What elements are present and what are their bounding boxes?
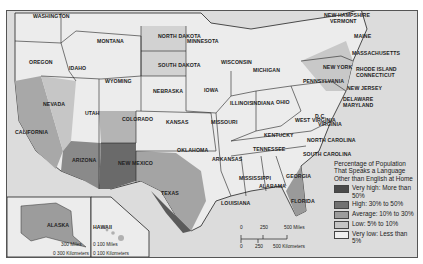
- state-label: ILLINOIS: [230, 100, 253, 106]
- state-label: MONTANA: [97, 38, 124, 44]
- state-label: COLORADO: [122, 116, 153, 122]
- scale-miles-500: 500 Miles: [284, 225, 305, 230]
- state-label: OREGON: [29, 59, 53, 65]
- legend-label: Average: 10% to 30%: [352, 210, 414, 217]
- state-label: MICHIGAN: [253, 67, 280, 73]
- state-label: VERMONT: [330, 18, 357, 24]
- legend-label: Very high: More than 50%: [352, 184, 418, 199]
- state-label: PENNSYLVANIA: [303, 78, 344, 84]
- state-label: WISCONSIN: [221, 59, 252, 65]
- scale-km-250: 250: [255, 244, 263, 249]
- alaska-scale-miles: 300 Miles: [61, 242, 82, 247]
- state-label: KANSAS: [166, 119, 189, 125]
- state-label: TEXAS: [161, 190, 179, 196]
- state-label: SOUTH CAROLINA: [303, 151, 351, 157]
- legend-swatch: [334, 231, 349, 239]
- state-label: OHIO: [276, 99, 290, 105]
- state-label: SOUTH DAKOTA: [158, 62, 201, 68]
- legend-label: Low: 5% to 10%: [352, 220, 398, 227]
- state-label: IOWA: [204, 87, 218, 93]
- state-label: MAINE: [354, 33, 371, 39]
- legend-label: High: 30% to 50%: [352, 200, 403, 207]
- scale-miles-0: 0: [240, 225, 243, 230]
- state-label: KENTUCKY: [264, 132, 294, 138]
- state-label: NEW JERSEY: [347, 85, 382, 91]
- hawaii-scale-miles: 0 100 Miles: [93, 242, 118, 247]
- state-label: ALABAMA: [259, 183, 286, 189]
- state-label: NEBRASKA: [153, 88, 183, 94]
- state-label: IDAHO: [69, 65, 86, 71]
- legend-swatch: [334, 185, 349, 193]
- legend-label: Very low: Less than 5%: [352, 230, 418, 245]
- state-label: UTAH: [85, 110, 99, 116]
- state-label: FLORIDA: [291, 198, 315, 204]
- legend-swatch: [334, 201, 349, 209]
- state-label: MINNESOTA: [187, 38, 219, 44]
- state-label: VIRGINIA: [318, 121, 342, 127]
- state-label: HAWAII: [93, 224, 112, 230]
- legend-item-very-low: Very low: Less than 5%: [334, 230, 418, 245]
- state-label: ALASKA: [47, 222, 69, 228]
- state-label: NEVADA: [43, 101, 65, 107]
- state-label: INDIANA: [252, 100, 274, 106]
- scale-km-0: 0: [240, 244, 243, 249]
- state-label: OKLAHOMA: [177, 147, 208, 153]
- state-label: WASHINGTON: [33, 13, 70, 19]
- legend-item-high: High: 30% to 50%: [334, 200, 418, 209]
- state-label: D.C.: [315, 113, 326, 119]
- state-label: CALIFORNIA: [15, 129, 48, 135]
- scale-km-500: 500 Kilometers: [273, 244, 305, 249]
- hawaii-scale-km: 0 100 Kilometers: [93, 251, 129, 256]
- state-label: WYOMING: [105, 78, 132, 84]
- state-label: MISSISSIPPI: [239, 175, 271, 181]
- state-label: NORTH CAROLINA: [307, 137, 356, 143]
- state-label: NEW YORK: [323, 64, 352, 70]
- state-label: ARIZONA: [72, 157, 96, 163]
- state-label: GEORGIA: [286, 173, 311, 179]
- scale-miles-250: 250: [260, 225, 268, 230]
- state-label: MARYLAND: [343, 102, 373, 108]
- legend-item-very-high: Very high: More than 50%: [334, 184, 418, 199]
- legend-item-low: Low: 5% to 10%: [334, 220, 418, 229]
- state-label: MISSOURI: [211, 119, 237, 125]
- state-label: CONNECTICUT: [356, 72, 395, 78]
- state-label: MASSACHUSETTS: [352, 50, 400, 56]
- legend-title: Percentage of Population That Speaks a L…: [334, 160, 418, 182]
- map-legend: Percentage of Population That Speaks a L…: [334, 160, 418, 246]
- state-label: LOUISIANA: [221, 200, 250, 206]
- state-label: ARKANSAS: [212, 156, 242, 162]
- alaska-scale-km: 0 300 Kilometers: [53, 251, 89, 256]
- state-label: NEW MEXICO: [118, 160, 153, 166]
- legend-swatch: [334, 211, 349, 219]
- legend-swatch: [334, 221, 349, 229]
- legend-item-average: Average: 10% to 30%: [334, 210, 418, 219]
- state-label: TENNESSEE: [253, 146, 285, 152]
